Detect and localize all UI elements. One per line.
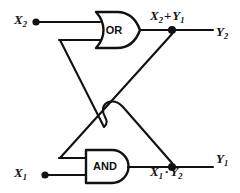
or-expr-operator: + xyxy=(163,8,172,23)
input-terminal-x1 xyxy=(41,171,48,178)
and-expr-term2-sub: 2 xyxy=(178,171,182,181)
input-label-x2-sub: 2 xyxy=(23,19,27,29)
or-expr-term1: X xyxy=(150,8,159,23)
output-label-y2-name: Y xyxy=(216,24,224,39)
or-expr-term2-sub: 1 xyxy=(180,15,184,25)
output-label-y1: Y1 xyxy=(216,152,228,167)
and-expr-term1: X xyxy=(150,164,159,179)
and-output-expression: X1·Y2 xyxy=(150,165,182,180)
or-gate-label: OR xyxy=(106,24,123,36)
output-label-y1-sub: 1 xyxy=(224,158,228,168)
and-gate-label: AND xyxy=(93,160,117,172)
output-label-y2: Y2 xyxy=(216,25,228,40)
junction-or-output xyxy=(168,26,176,34)
feedback-or-to-and xyxy=(60,34,172,158)
input-label-x1-sub: 1 xyxy=(23,172,27,182)
input-label-x2: X2 xyxy=(14,13,27,28)
feedback-and-to-or xyxy=(60,40,172,163)
output-label-y1-name: Y xyxy=(216,151,224,166)
input-label-x2-name: X xyxy=(14,12,23,27)
input-label-x1-name: X xyxy=(14,165,23,180)
output-label-y2-sub: 2 xyxy=(224,31,228,41)
input-terminal-x2 xyxy=(32,18,39,25)
circuit-schematic: OR AND xyxy=(0,0,240,193)
logic-diagram: OR AND X2 X1 X2+Y1 X1·Y2 Y2 xyxy=(0,0,240,193)
or-output-expression: X2+Y1 xyxy=(150,9,185,24)
input-label-x1: X1 xyxy=(14,166,27,181)
